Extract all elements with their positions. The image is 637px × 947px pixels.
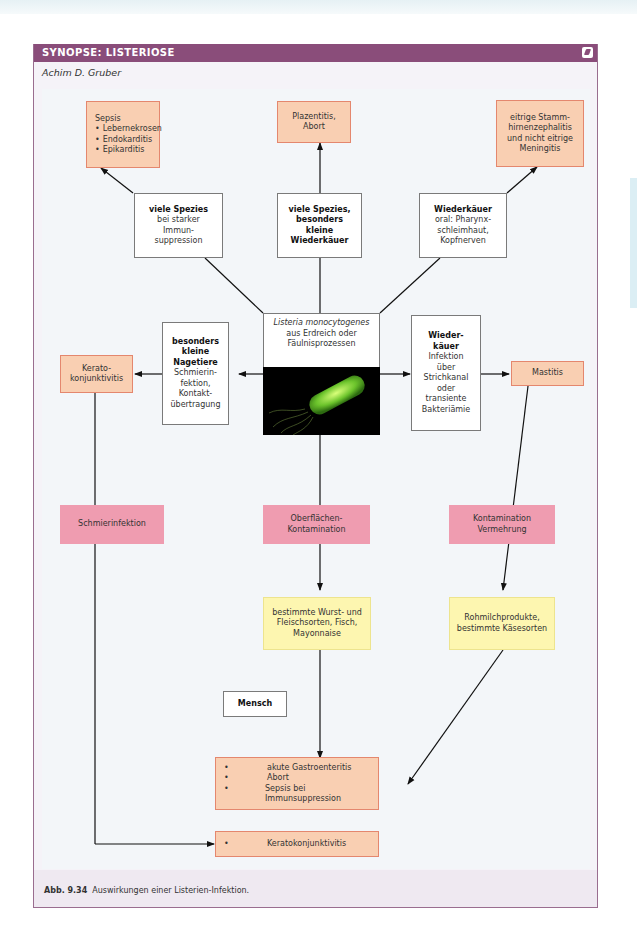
bold-line: käuer [433, 342, 459, 353]
bacterium-icon [263, 367, 380, 435]
food-rohmilch: Rohmilchprodukte, bestimmte Käsesorten [449, 597, 555, 650]
species-name: Listeria monocytogenes [274, 318, 370, 329]
text-line: Fäulnisprozessen [287, 339, 355, 350]
text-line: bestimmte Käsesorten [457, 624, 547, 635]
list-item: Sepsis bei Immunsuppression [224, 784, 378, 805]
text-line: transiente [426, 394, 467, 405]
branch-nagetiere: besonders kleine Nagetiere Schmierin- fe… [162, 322, 229, 425]
outcome-plazentitis: Plazentitis, Abort [277, 101, 351, 143]
text-line: Kopfnerven [440, 236, 486, 247]
text-line: Plazentitis, [292, 112, 336, 123]
text-line: Kontakt- [179, 389, 213, 400]
list-item: Endokarditis [95, 135, 162, 146]
text-line: Mastitis [532, 368, 563, 379]
text-line: bestimmte Wurst- und [272, 608, 362, 619]
outcome-human-diseases: akute Gastroenteritis Abort Sepsis bei I… [215, 757, 379, 810]
route-kontamination-vermehrung: Kontamination Vermehrung [449, 505, 555, 544]
outcome-meningitis: eitrige Stamm- hirnenzephalitis und nich… [496, 100, 584, 167]
sepsis-list: Lebernekrosen Endokarditis Epikarditis [95, 124, 162, 156]
food-wurst-fleisch: bestimmte Wurst- und Fleischsorten, Fisc… [263, 597, 371, 650]
list-item: Keratokonjunktivitis [224, 839, 346, 850]
bold-line: besonders [296, 215, 343, 226]
text-line: konjunktivitis [70, 374, 123, 385]
text-line: und nicht eitrige [507, 134, 573, 145]
text-line: Meningitis [519, 144, 560, 155]
bold-line: kleine [182, 347, 209, 358]
bold-line: besonders [172, 337, 219, 348]
list-item: Abort [224, 773, 378, 784]
text-line: schleimhaut, [437, 226, 489, 237]
text-line: Kontamination [287, 525, 345, 536]
bold-line: Mensch [238, 699, 272, 710]
list-item: Lebernekrosen [95, 124, 162, 135]
bold-line: kleine [306, 226, 333, 237]
text-line: Kerato- [82, 364, 111, 375]
text-line: fektion, [180, 379, 210, 390]
bold-line: Wiederkäuer [434, 205, 492, 216]
bold-line: Wieder- [428, 331, 463, 342]
branch-wiederkaeuer-oral: Wiederkäuer oral: Pharynx- schleimhaut, … [419, 193, 507, 258]
human-disease-list: akute Gastroenteritis Abort Sepsis bei I… [224, 763, 378, 805]
text-line: Infektion [428, 352, 463, 363]
route-schmierinfektion: Schmierinfektion [60, 505, 164, 544]
bold-line: viele Spezies [149, 205, 208, 216]
bold-line: viele Spezies, [289, 205, 351, 216]
sepsis-title: Sepsis [95, 114, 121, 125]
text-line: oder [437, 384, 455, 395]
text-line: bei starker [157, 215, 200, 226]
branch-wiederkaeuer-euter: Wieder- käuer Infektion über Strichkanal… [411, 315, 481, 431]
text-line: suppression [155, 236, 203, 247]
text-line: Schmierin- [174, 368, 217, 379]
bold-line: Wiederkäuer [291, 236, 349, 247]
list-item: akute Gastroenteritis [224, 763, 378, 774]
text-line: hirnenzephalitis [508, 123, 572, 134]
text-line: aus Erdreich oder [286, 329, 356, 340]
text-line: oral: Pharynx- [435, 215, 491, 226]
text-line: Kontamination [473, 514, 531, 525]
bold-line: Nagetiere [173, 358, 218, 369]
text-line: Oberflächen- [291, 514, 343, 525]
text-line: Strichkanal [424, 373, 469, 384]
text-line: übertragung [171, 400, 221, 411]
list-item: Epikarditis [95, 145, 162, 156]
text-line: über [437, 363, 455, 374]
text-line: eitrige Stamm- [510, 113, 570, 124]
outcome-mastitis: Mastitis [511, 361, 584, 386]
text-line: Schmierinfektion [78, 519, 146, 530]
text-line: Mayonnaise [293, 629, 341, 640]
text-line: Abort [303, 122, 325, 133]
outcome-sepsis: Sepsis Lebernekrosen Endokarditis Epikar… [86, 101, 160, 168]
human-eye-list: Keratokonjunktivitis [224, 839, 346, 850]
outcome-human-eye: Keratokonjunktivitis [215, 831, 379, 857]
text-line: Fleischsorten, Fisch, [277, 618, 358, 629]
text-line: Vermehrung [477, 525, 526, 536]
branch-viele-spezies-immun: viele Spezies bei starker Immun- suppres… [134, 193, 223, 258]
outcome-keratokonjunktivitis: Kerato- konjunktivitis [60, 355, 133, 393]
text-line: Bakteriämie [422, 405, 470, 416]
route-oberflaechen-kontamination: Oberflächen- Kontamination [263, 505, 370, 544]
text-line: Immun- [163, 226, 194, 237]
host-mensch: Mensch [223, 691, 287, 717]
branch-kleine-wiederkaeuer: viele Spezies, besonders kleine Wiederkä… [277, 193, 362, 258]
text-line: Rohmilchprodukte, [464, 613, 539, 624]
bacterium-image [263, 367, 380, 435]
